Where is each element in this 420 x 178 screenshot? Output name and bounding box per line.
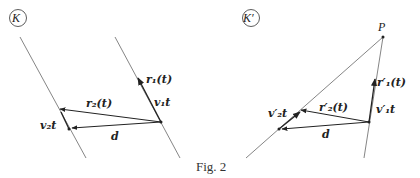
worldline-2	[20, 37, 86, 158]
label-p: P	[377, 20, 386, 34]
figure-canvas: K r₁(t) v₁t r₂(t) v₂t d K′ P	[0, 0, 420, 178]
worldline-1-prime	[364, 37, 383, 158]
figure-caption: Fig. 2	[196, 159, 226, 174]
vector-v2t	[61, 112, 69, 129]
frame-badge-k-prime: K′	[242, 10, 260, 27]
panel-left: K r₁(t) v₁t r₂(t) v₂t d	[10, 10, 181, 159]
label-r1-prime: r′₁(t)	[377, 76, 406, 89]
point-2-prime	[278, 128, 281, 131]
label-v2t-prime: v′₂t	[268, 107, 287, 120]
label-v1t: v₁t	[154, 96, 170, 109]
worldline-2-prime	[246, 37, 383, 158]
label-r2: r₂(t)	[86, 97, 112, 110]
label-v2t: v₂t	[40, 119, 56, 132]
label-v1t-prime: v′₁t	[376, 103, 395, 116]
panel-right: K′ P r′₁(t) v′₁t r′₂(t) v′₂t d	[242, 10, 406, 159]
frame-label: K	[11, 11, 21, 25]
vector-r2	[60, 109, 161, 122]
frame-badge-k: K	[10, 10, 27, 27]
label-d-prime: d	[322, 128, 330, 141]
label-r2-prime: r′₂(t)	[319, 101, 348, 114]
vector-d	[72, 122, 161, 128]
frame-label: K′	[242, 11, 254, 25]
point-origin-prime	[368, 121, 371, 124]
point-2	[68, 128, 71, 131]
point-p	[382, 36, 385, 39]
label-r1: r₁(t)	[146, 73, 172, 86]
vector-v1t-prime	[369, 79, 375, 122]
point-origin	[160, 121, 163, 124]
label-d: d	[111, 130, 119, 143]
